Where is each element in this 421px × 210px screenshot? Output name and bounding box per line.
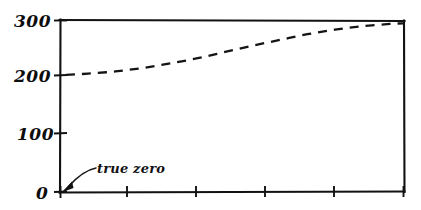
data-series-line xyxy=(66,23,404,74)
y-axis-tick-labels: 300 200 100 0 xyxy=(13,11,54,203)
true-zero-annotation: true zero xyxy=(62,161,166,193)
annotation-leader-line xyxy=(69,168,97,187)
annotation-arrow-head xyxy=(62,182,74,193)
y-axis-line xyxy=(60,20,61,193)
right-frame-line xyxy=(404,21,405,193)
true-zero-label: true zero xyxy=(97,161,165,176)
data-series-group xyxy=(66,23,404,74)
chart-container: 300 200 100 0 true zero xyxy=(0,0,421,210)
y-tick-label-100: 100 xyxy=(17,124,54,144)
y-tick-200 xyxy=(54,75,67,76)
y-tick-100 xyxy=(54,133,67,134)
y-tick-label-200: 200 xyxy=(13,66,51,86)
hand-drawn-line-chart: 300 200 100 0 true zero xyxy=(0,0,421,210)
y-tick-label-300: 300 xyxy=(14,11,51,31)
y-tick-label-0: 0 xyxy=(36,183,48,203)
x-axis-line xyxy=(60,192,405,193)
top-frame-line xyxy=(60,20,405,21)
